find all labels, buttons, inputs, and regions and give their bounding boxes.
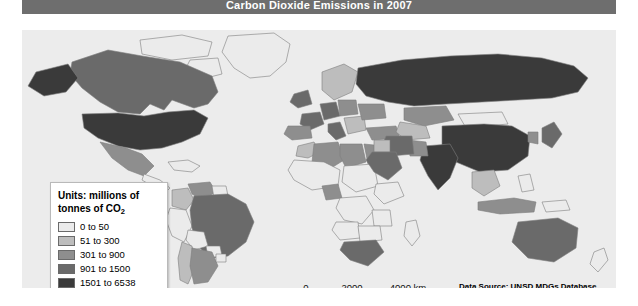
- legend-title-line2: tonnes of CO2: [58, 203, 160, 217]
- legend-swatch-0: [58, 222, 75, 232]
- region-korea: [528, 132, 538, 144]
- page-root: Carbon Dioxide Emissions in 2007 .land {…: [0, 0, 638, 306]
- page-title: Carbon Dioxide Emissions in 2007: [22, 0, 616, 11]
- legend-swatch-4: [58, 278, 75, 288]
- legend-title-subscript: 2: [121, 207, 125, 216]
- legend-title: Units: millions of tonnes of CO2: [58, 190, 160, 216]
- scale-label-4000: 4000 km: [390, 282, 426, 288]
- scale-label-0: 0: [303, 282, 308, 288]
- legend-label-4: 1501 to 6538: [80, 277, 135, 288]
- legend-item-4: 1501 to 6538: [58, 276, 160, 288]
- world-map: .land { stroke: #7d7d7d; stroke-width: .…: [22, 30, 616, 288]
- region-iraq: [374, 140, 390, 152]
- region-png: [542, 200, 570, 212]
- legend-label-1: 51 to 300: [80, 235, 120, 246]
- title-banner: Carbon Dioxide Emissions in 2007: [22, 0, 616, 14]
- legend-label-3: 901 to 1500: [80, 263, 130, 274]
- legend-swatch-1: [58, 236, 75, 246]
- legend-label-0: 0 to 50: [80, 221, 109, 232]
- legend-swatch-3: [58, 264, 75, 274]
- region-zambia: [358, 226, 382, 242]
- legend-item-3: 901 to 1500: [58, 262, 160, 275]
- map-legend: Units: millions of tonnes of CO2 0 to 50…: [50, 182, 168, 288]
- scale-bar-labels: 0 2000 4000 km: [304, 282, 400, 288]
- scale-label-2000: 2000: [341, 282, 362, 288]
- region-tanzania: [372, 210, 392, 226]
- credit-data-source: Data Source: UNSD MDGs Database: [459, 282, 596, 288]
- legend-item-1: 51 to 300: [58, 234, 160, 247]
- legend-item-2: 301 to 900: [58, 248, 160, 261]
- legend-swatch-2: [58, 250, 75, 260]
- source-credits: Data Source: UNSD MDGs Database Map sour…: [459, 282, 596, 288]
- region-poland: [338, 100, 358, 116]
- legend-item-0: 0 to 50: [58, 220, 160, 233]
- legend-title-line1: Units: millions of: [58, 190, 160, 203]
- region-ukraine: [358, 104, 386, 120]
- region-uruguay: [216, 254, 226, 262]
- scale-bar: 0 2000 4000 km: [304, 282, 400, 288]
- legend-label-2: 301 to 900: [80, 249, 125, 260]
- legend-title-line2-text: tonnes of CO: [58, 203, 121, 214]
